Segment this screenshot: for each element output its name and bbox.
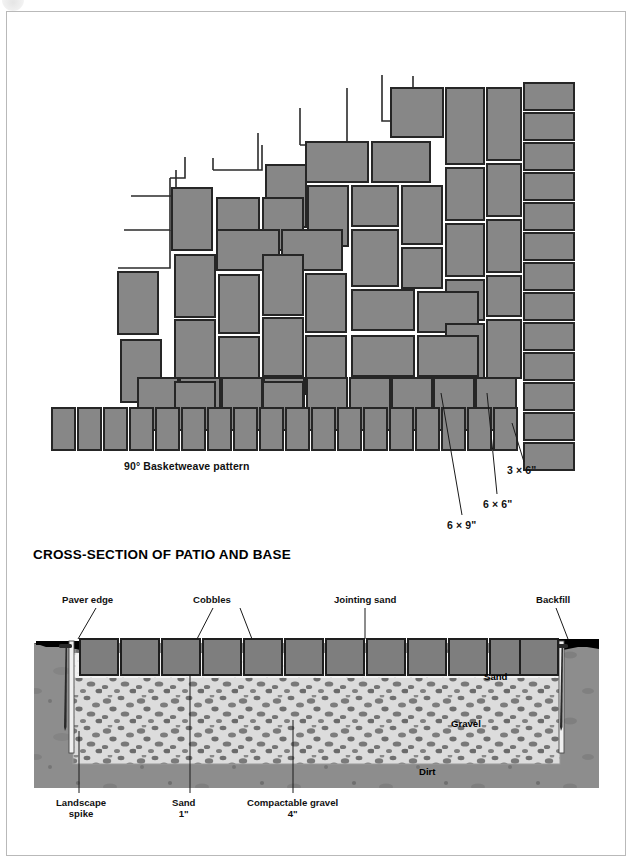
label-landscape-spike-line2: spike	[56, 808, 106, 819]
cobble	[244, 639, 282, 675]
inline-label-gravel: Gravel	[451, 718, 481, 729]
basketweave-pattern-svg	[0, 0, 633, 540]
leader-cobbles-right	[240, 608, 252, 639]
label-gravel-line1: Compactable gravel	[247, 797, 338, 808]
callout-3x6-label: 3 × 6"	[507, 464, 536, 476]
label-cobbles: Cobbles	[193, 594, 231, 605]
cobble	[121, 639, 159, 675]
callout-6x9-label: 6 × 9"	[447, 519, 476, 531]
label-landscape-spike: Landscape spike	[56, 797, 106, 819]
gravel-layer	[73, 676, 560, 764]
cobble	[520, 639, 558, 675]
cross-section-figure: Paver edge Cobbles Jointing sand Backfil…	[0, 575, 633, 862]
cobble	[367, 639, 405, 675]
cobble	[449, 639, 487, 675]
cross-top-leaders	[78, 608, 568, 639]
cobble	[203, 639, 241, 675]
cobble-group	[80, 639, 558, 675]
label-jointing-sand: Jointing sand	[334, 594, 396, 605]
label-gravel-line2: 4"	[247, 808, 338, 819]
cobble	[326, 639, 364, 675]
label-paver-edge: Paver edge	[62, 594, 113, 605]
label-compactable-gravel: Compactable gravel 4"	[247, 797, 338, 819]
leader-paver-edge	[78, 608, 96, 639]
callout-6x6-label: 6 × 6"	[483, 498, 512, 510]
filled-paver-group	[52, 83, 574, 470]
basketweave-pattern-figure: 90° Basketweave pattern 6 × 9" 6 × 6" 3 …	[0, 0, 633, 540]
pattern-caption: 90° Basketweave pattern	[124, 460, 250, 472]
cobble	[80, 639, 118, 675]
inline-label-sand: Sand	[484, 671, 507, 682]
label-sand-line2: 1"	[172, 808, 195, 819]
cobble	[408, 639, 446, 675]
cobble	[162, 639, 200, 675]
leader-backfill	[556, 608, 568, 639]
label-sand-depth: Sand 1"	[172, 797, 195, 819]
cross-section-heading: CROSS-SECTION OF PATIO AND BASE	[33, 547, 291, 562]
cobble	[285, 639, 323, 675]
label-sand-line1: Sand	[172, 797, 195, 808]
leader-cobbles-left	[197, 608, 213, 639]
inline-label-dirt: Dirt	[419, 766, 436, 777]
label-backfill: Backfill	[536, 594, 570, 605]
label-landscape-spike-line1: Landscape	[56, 797, 106, 808]
